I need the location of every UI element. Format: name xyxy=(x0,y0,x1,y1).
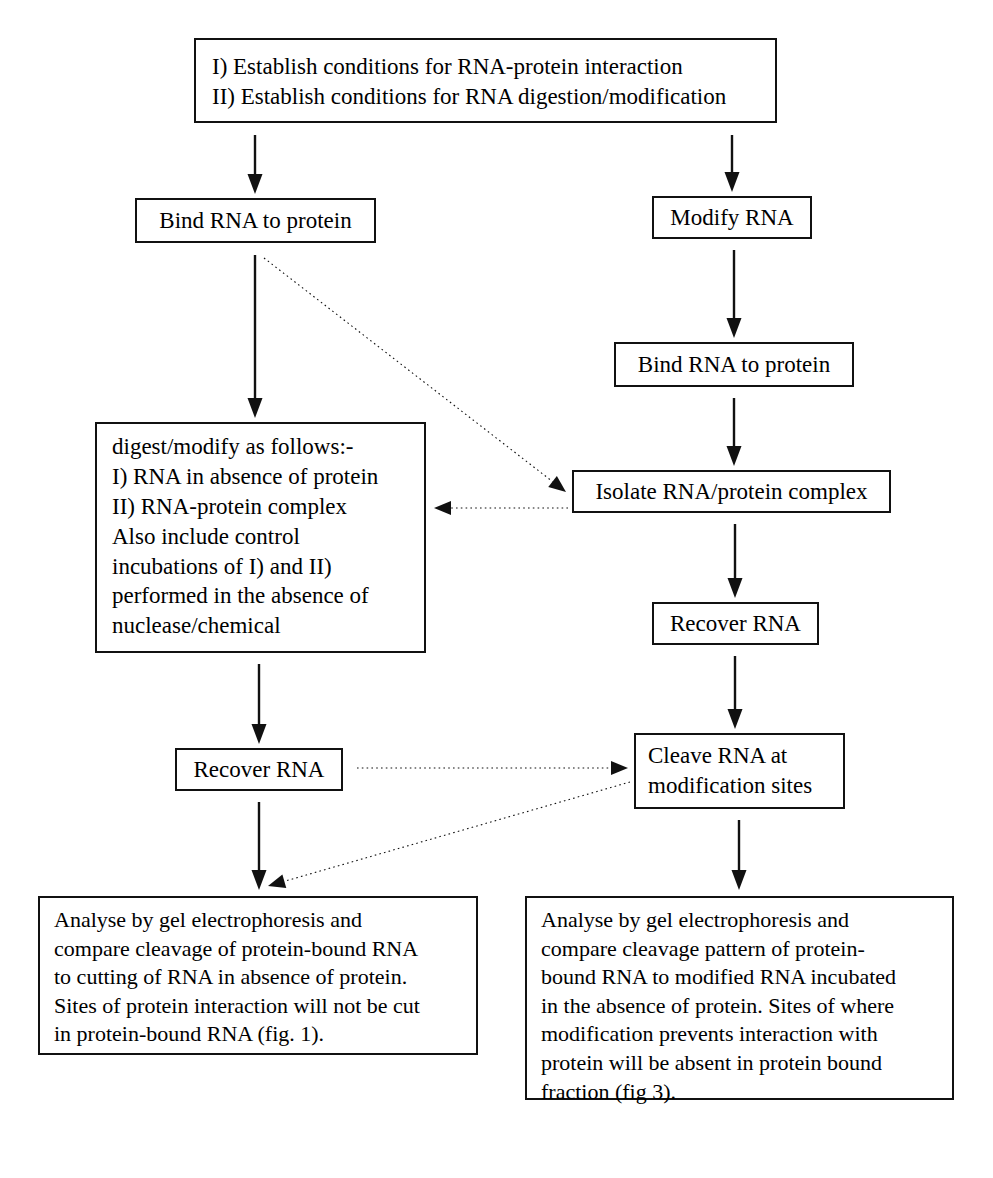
node-analyse-left: Analyse by gel electrophoresis and compa… xyxy=(38,896,478,1055)
edge-cleave-to-analyse-left-dotted xyxy=(268,782,630,888)
node-establish: I) Establish conditions for RNA-protein … xyxy=(194,38,777,123)
node-digest-modify: digest/modify as follows:- I) RNA in abs… xyxy=(95,422,426,653)
edge-bind-right-to-isolate xyxy=(727,398,742,466)
node-modify-rna: Modify RNA xyxy=(652,196,812,239)
edge-cleave-to-analyse-right xyxy=(732,820,747,890)
edge-recover-left-to-analyse-left xyxy=(252,802,267,890)
node-isolate-complex: Isolate RNA/protein complex xyxy=(572,470,891,513)
flowchart-canvas: I) Establish conditions for RNA-protein … xyxy=(0,0,993,1178)
node-cleave-rna: Cleave RNA at modification sites xyxy=(634,733,845,809)
edge-recover-right-to-cleave xyxy=(728,656,743,729)
edge-establish-to-modify xyxy=(725,135,740,192)
node-bind-left: Bind RNA to protein xyxy=(135,198,376,243)
edge-bind-left-to-digest xyxy=(248,255,263,418)
edge-establish-to-bind-left xyxy=(248,135,263,194)
edge-isolate-to-digest-dotted xyxy=(434,501,568,515)
edge-digest-to-recover-left xyxy=(252,664,267,744)
node-recover-rna-left: Recover RNA xyxy=(175,748,343,791)
node-bind-right: Bind RNA to protein xyxy=(614,342,854,387)
edge-modify-to-bind-right xyxy=(727,250,742,338)
node-analyse-right: Analyse by gel electrophoresis and compa… xyxy=(525,896,954,1100)
edge-isolate-to-recover-right xyxy=(728,524,743,598)
node-recover-rna-right: Recover RNA xyxy=(652,602,819,645)
edge-recover-left-to-cleave-dotted xyxy=(357,761,628,775)
